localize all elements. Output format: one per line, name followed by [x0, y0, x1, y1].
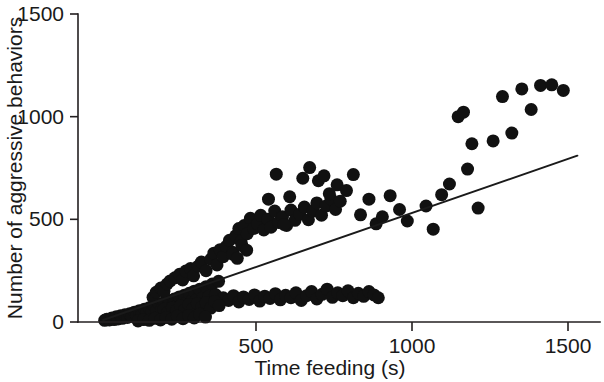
- data-point: [384, 189, 397, 202]
- data-point: [465, 137, 478, 150]
- data-point: [372, 291, 385, 304]
- x-axis-ticks: 50010001500: [238, 322, 591, 357]
- plot-canvas: 050010001500 50010001500 Number of aggre…: [0, 0, 604, 382]
- data-point: [262, 193, 275, 206]
- data-point: [393, 203, 406, 216]
- x-tick-label: 1000: [389, 334, 436, 357]
- y-axis-ticks: 050010001500: [17, 2, 78, 333]
- data-point: [240, 244, 253, 257]
- data-point: [525, 103, 538, 116]
- data-point: [515, 82, 528, 95]
- y-tick-label: 500: [29, 207, 64, 230]
- data-point: [557, 84, 570, 97]
- data-point: [354, 208, 367, 221]
- data-point: [303, 161, 316, 174]
- scatter-plot-figure: 050010001500 50010001500 Number of aggre…: [0, 0, 604, 382]
- data-point: [270, 168, 283, 181]
- y-tick-label: 0: [52, 310, 64, 333]
- data-point: [545, 78, 558, 91]
- data-points-layer: [98, 78, 570, 327]
- data-point: [296, 172, 309, 185]
- data-point: [472, 202, 485, 215]
- data-point: [534, 79, 547, 92]
- data-point: [340, 184, 353, 197]
- data-point: [457, 106, 470, 119]
- data-point: [443, 178, 456, 191]
- x-axis-title: Time feeding (s): [255, 356, 406, 379]
- y-axis-title: Number of aggressive behaviors: [3, 17, 26, 319]
- data-point: [347, 168, 360, 181]
- data-point: [496, 90, 509, 103]
- data-point: [435, 188, 448, 201]
- data-point: [487, 134, 500, 147]
- x-tick-label: 500: [238, 334, 273, 357]
- data-point: [427, 223, 440, 236]
- data-point: [461, 163, 474, 176]
- data-point: [362, 193, 375, 206]
- x-tick-label: 1500: [545, 334, 592, 357]
- data-point: [213, 299, 226, 312]
- data-point: [505, 127, 518, 140]
- data-point: [318, 169, 331, 182]
- data-point: [283, 190, 296, 203]
- data-point: [278, 218, 291, 231]
